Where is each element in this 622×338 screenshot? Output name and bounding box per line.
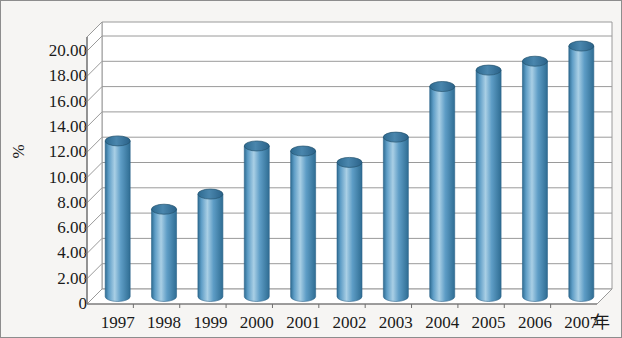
x-axis-tick-2001: 2001 xyxy=(277,314,329,331)
bar-1999 xyxy=(198,189,223,301)
bar-2004 xyxy=(430,82,455,302)
bar-1997 xyxy=(105,136,130,302)
bar-2005 xyxy=(476,65,501,301)
bar-2003 xyxy=(383,132,408,301)
bar-2000 xyxy=(244,141,269,302)
x-axis-tick-labels: 1997199819992000200120022003200420052006… xyxy=(1,312,622,338)
x-axis-tick-2004: 2004 xyxy=(416,314,468,331)
x-axis-tick-1997: 1997 xyxy=(92,314,144,331)
chart-figure: 02.004.006.008.0010.0012.0014.0016.0018.… xyxy=(0,0,622,338)
x-axis-tick-2000: 2000 xyxy=(231,314,283,331)
bar-2006 xyxy=(522,56,547,301)
x-axis-tick-2006: 2006 xyxy=(509,314,561,331)
x-axis-unit-label: 年 xyxy=(593,314,610,331)
bar-1998 xyxy=(152,204,177,301)
x-axis-tick-1998: 1998 xyxy=(138,314,190,331)
x-axis-tick-2005: 2005 xyxy=(463,314,515,331)
bar-2002 xyxy=(337,157,362,301)
x-axis-tick-2002: 2002 xyxy=(324,314,376,331)
bar-2007 xyxy=(569,41,594,301)
bar-chart-plot xyxy=(1,1,622,338)
x-axis-tick-1999: 1999 xyxy=(184,314,236,331)
x-axis-tick-2003: 2003 xyxy=(370,314,422,331)
bar-2001 xyxy=(291,146,316,301)
